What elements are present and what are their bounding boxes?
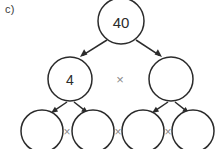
- node-level1-left[interactable]: 4: [48, 57, 92, 101]
- node-level2-1[interactable]: [21, 110, 63, 149]
- factor-tree-canvas: 40 4 × × × ×: [0, 0, 216, 149]
- operator-multiply-level2-3: ×: [164, 125, 171, 139]
- node-circle-level2-2[interactable]: [72, 110, 114, 149]
- node-level1-right[interactable]: [149, 57, 193, 101]
- node-circle-level2-1[interactable]: [21, 110, 63, 149]
- operator-multiply-level2-1: ×: [63, 125, 70, 139]
- node-circle-level1-right[interactable]: [149, 57, 193, 101]
- arrow-root-to-left: [80, 40, 107, 57]
- node-value-level1-left: 4: [66, 72, 74, 88]
- node-value-root: 40: [113, 14, 130, 31]
- node-level2-2[interactable]: [72, 110, 114, 149]
- node-level2-4[interactable]: [172, 110, 214, 149]
- arrow-root-to-right: [136, 40, 162, 57]
- operator-multiply-level2-2: ×: [114, 125, 121, 139]
- node-level2-3[interactable]: [122, 110, 164, 149]
- node-circle-level2-3[interactable]: [122, 110, 164, 149]
- factor-tree-diagram: c) 40: [0, 0, 216, 149]
- node-circle-level2-4[interactable]: [172, 110, 214, 149]
- node-root[interactable]: 40: [98, 0, 144, 44]
- operator-multiply-level1: ×: [116, 72, 124, 87]
- arrow-right-to-child1: [152, 102, 168, 113]
- arrow-left-to-child1: [51, 102, 67, 113]
